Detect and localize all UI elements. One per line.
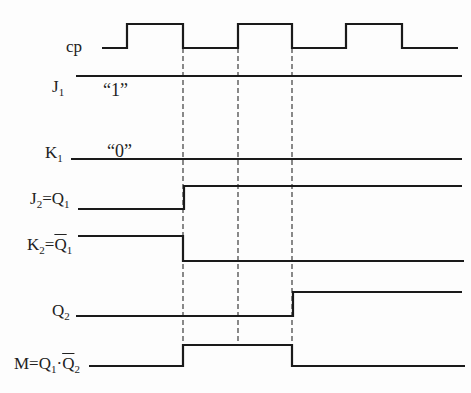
q1-bar: Q bbox=[54, 235, 66, 254]
waveform-canvas bbox=[0, 0, 471, 393]
signal-label-m: M=Q1·Q2 bbox=[14, 355, 80, 375]
signal-label-cp: cp bbox=[66, 38, 82, 55]
waveform-q2 bbox=[76, 292, 462, 316]
waveform-j2 bbox=[78, 186, 462, 209]
j1-value-annotation: “1” bbox=[103, 80, 128, 101]
signal-label-k1: K1 bbox=[45, 144, 63, 164]
q2-bar: Q bbox=[62, 354, 74, 373]
timing-diagram: cp J1 K1 J2=Q1 K2=Q1 Q2 M=Q1·Q2 “1” “0” bbox=[0, 0, 471, 393]
waveform-cp bbox=[102, 24, 458, 48]
signal-label-j2: J2=Q1 bbox=[30, 190, 70, 210]
signal-label-q2: Q2 bbox=[52, 302, 70, 322]
signal-label-k2: K2=Q1 bbox=[27, 236, 72, 256]
waveform-k2 bbox=[78, 236, 464, 261]
signal-label-j1: J1 bbox=[52, 78, 64, 98]
k1-value-annotation: “0” bbox=[107, 141, 132, 162]
waveform-m bbox=[89, 345, 465, 366]
